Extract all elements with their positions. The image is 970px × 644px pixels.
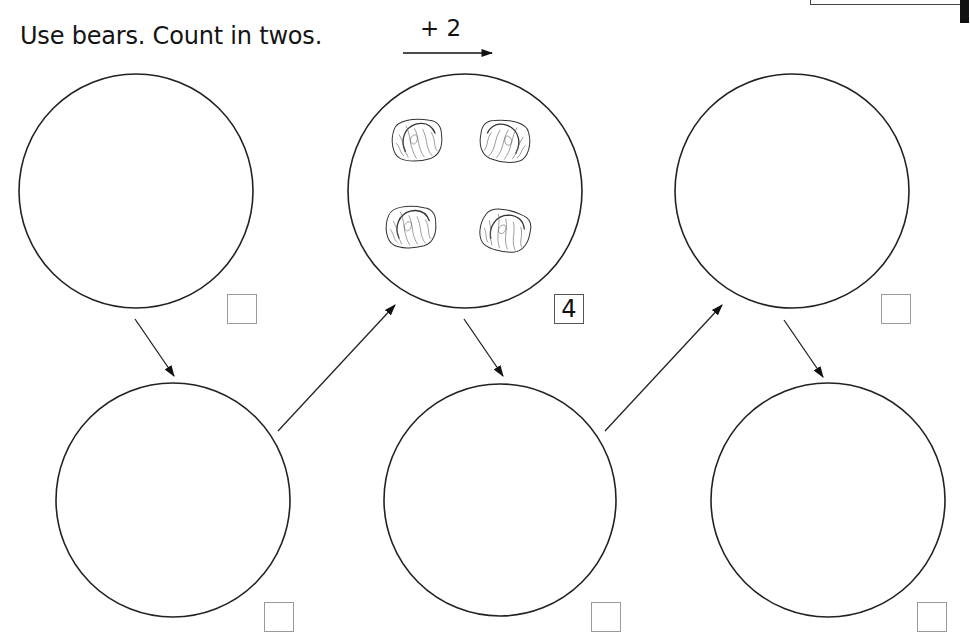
- worksheet-diagram: [0, 0, 970, 644]
- set-circle-4[interactable]: [384, 384, 616, 616]
- answer-box-3[interactable]: 4: [554, 294, 584, 324]
- arrow-icon: [464, 319, 503, 376]
- bear-counter-icon: [389, 116, 444, 164]
- bear-counter-icon: [384, 204, 438, 251]
- bear-counter-icon: [476, 115, 534, 166]
- arrow-icon: [784, 320, 823, 377]
- answer-box-5[interactable]: [881, 294, 911, 324]
- arrow-icon: [278, 305, 395, 431]
- bear-counter-icon: [477, 207, 532, 255]
- arrow-icon: [605, 305, 722, 431]
- set-circle-1[interactable]: [19, 74, 253, 308]
- set-circle-5[interactable]: [675, 74, 909, 308]
- set-circle-3[interactable]: [348, 74, 582, 308]
- answer-box-6[interactable]: [917, 602, 947, 632]
- answer-box-1[interactable]: [227, 294, 257, 324]
- answer-box-4[interactable]: [591, 602, 621, 632]
- arrow-icon: [135, 319, 174, 376]
- set-circle-2[interactable]: [56, 383, 290, 617]
- answer-box-2[interactable]: [264, 602, 294, 632]
- set-circle-6[interactable]: [711, 383, 945, 617]
